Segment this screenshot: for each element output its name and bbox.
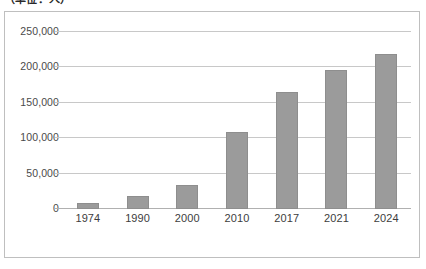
y-tick-label: 100,000 <box>20 131 59 143</box>
bar-2024[interactable] <box>375 54 397 209</box>
bar-slot-2017 <box>262 12 312 209</box>
bar-1974[interactable] <box>77 203 99 209</box>
bar-slot-2010 <box>212 12 262 209</box>
bar-slot-1990 <box>113 12 163 209</box>
y-tick-label: 150,000 <box>20 96 59 108</box>
plot-wrapper: 250,000 200,000 150,000 100,000 50,000 0 <box>5 12 419 257</box>
x-tick-label-2000: 2000 <box>162 212 212 224</box>
y-tick-label: 250,000 <box>20 25 59 37</box>
bar-slot-1974 <box>63 12 113 209</box>
chart-screenshot: （単位：人） 250,000 200,000 150,000 100,000 5… <box>0 0 426 269</box>
bar-2017[interactable] <box>276 92 298 209</box>
x-tick-label-1974: 1974 <box>63 212 113 224</box>
bar-slot-2024 <box>361 12 411 209</box>
bar-2000[interactable] <box>176 185 198 209</box>
x-tick-label-2024: 2024 <box>361 212 411 224</box>
bar-2010[interactable] <box>226 132 248 209</box>
chart-frame: 250,000 200,000 150,000 100,000 50,000 0 <box>4 11 420 258</box>
bar-1990[interactable] <box>127 196 149 209</box>
bar-2021[interactable] <box>325 70 347 209</box>
x-axis-labels: 1974 1990 2000 2010 2017 2021 2024 <box>63 212 411 224</box>
y-tick-label: 200,000 <box>20 60 59 72</box>
bar-slot-2000 <box>162 12 212 209</box>
chart-title-strip: （単位：人） <box>0 0 426 11</box>
bar-series <box>63 12 411 209</box>
y-axis-labels: 250,000 200,000 150,000 100,000 50,000 0 <box>5 12 63 257</box>
chart-title: （単位：人） <box>4 0 71 6</box>
x-tick-label-2010: 2010 <box>212 212 262 224</box>
x-tick-label-2021: 2021 <box>312 212 362 224</box>
bar-slot-2021 <box>312 12 362 209</box>
x-tick-label-2017: 2017 <box>262 212 312 224</box>
x-tick-label-1990: 1990 <box>113 212 163 224</box>
